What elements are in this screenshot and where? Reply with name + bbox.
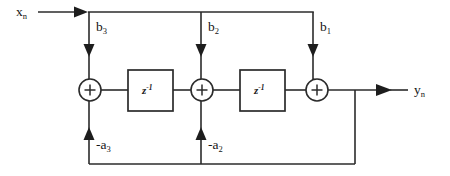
b3-label-text: b	[96, 19, 103, 34]
coefficient-label-b1: b1	[320, 20, 331, 34]
delay-1-label-exponent: -1	[146, 83, 152, 92]
delay-block-1-label: z-1	[142, 84, 153, 96]
a3-label-subscript: 3	[107, 144, 111, 154]
input-label-text: x	[16, 4, 23, 19]
a2-label-subscript: 2	[219, 144, 223, 154]
adder-3	[306, 79, 328, 101]
coefficient-label-a3: -a3	[96, 138, 111, 152]
output-wire-group	[328, 84, 408, 96]
output-label: yn	[414, 83, 425, 97]
a3-label-text: -a	[96, 137, 107, 152]
coefficient-label-b3: b3	[96, 20, 107, 34]
signal-flow-diagram: xn yn b3 b2 b1 -a3 -a2 z-1 z-1	[0, 0, 450, 176]
signal-flow-canvas	[0, 0, 450, 176]
input-arrow-icon	[74, 7, 88, 18]
a2-label-text: -a	[208, 137, 219, 152]
b3-label-subscript: 3	[103, 26, 107, 36]
output-label-subscript: n	[421, 89, 425, 99]
input-wire-group	[38, 7, 88, 18]
feedforward-branch-b2	[196, 12, 207, 81]
feedback-branch-a3	[84, 101, 95, 164]
feedforward-branch-b3	[84, 12, 95, 81]
b2-label-subscript: 2	[215, 26, 219, 36]
output-label-text: y	[414, 82, 421, 97]
b2-label-text: b	[208, 19, 215, 34]
adder-1	[79, 79, 101, 101]
b1-label-subscript: 1	[327, 26, 331, 36]
feedforward-branch-b1	[308, 12, 319, 81]
feedback-branch-a2	[196, 101, 207, 164]
adder-2	[191, 79, 213, 101]
coefficient-label-a2: -a2	[208, 138, 223, 152]
b1-label-text: b	[320, 19, 327, 34]
input-label-subscript: n	[23, 11, 27, 21]
input-label: xn	[16, 5, 27, 19]
output-arrow-icon	[376, 84, 392, 96]
delay-2-label-exponent: -1	[258, 83, 264, 92]
coefficient-label-b2: b2	[208, 20, 219, 34]
delay-block-2-label: z-1	[254, 84, 265, 96]
